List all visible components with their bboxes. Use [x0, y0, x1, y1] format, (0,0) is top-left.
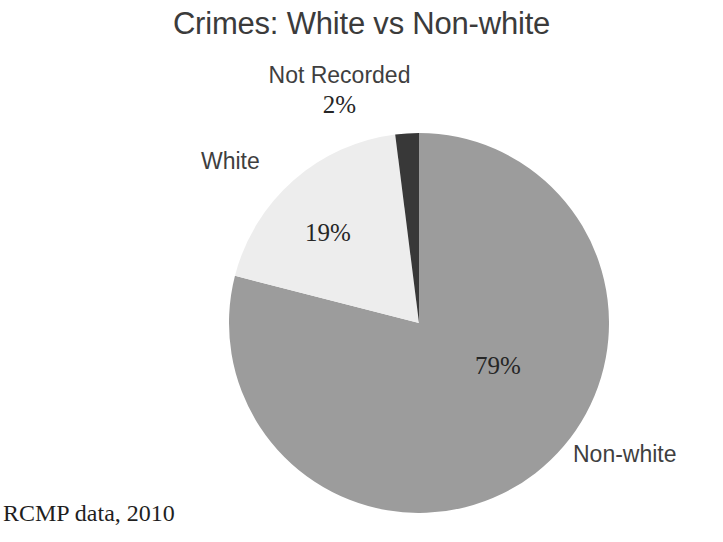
pie-chart — [229, 133, 609, 513]
pie-chart-svg — [229, 133, 609, 513]
slice-label-non-white: Non-white — [573, 441, 677, 468]
slice-value-not-recorded: 2% — [0, 91, 701, 119]
page-title: Crimes: White vs Non-white — [0, 6, 723, 42]
source-caption: RCMP data, 2010 — [3, 500, 175, 527]
slice-label-white: White — [201, 148, 260, 175]
slice-label-not-recorded: Not Recorded — [0, 62, 701, 89]
slice-value-non-white: 79% — [475, 352, 521, 380]
slide-canvas: Crimes: White vs Non-white Not Recorded … — [0, 0, 723, 542]
slice-value-white: 19% — [305, 219, 351, 247]
